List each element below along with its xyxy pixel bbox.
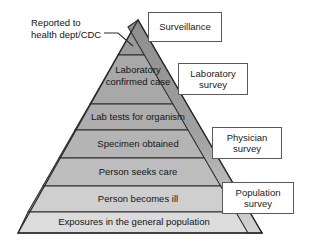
callout-box-laboratory-survey[interactable]: Laboratory survey [178,63,248,95]
pyramid-tier-person-seeks-care [43,158,233,186]
pyramid-tier-person-becomes-ill [28,186,248,212]
pyramid-tier-exposures-general-population [18,212,262,233]
diagram-canvas: Reported to health dept/CDC Laboratory c… [0,0,321,247]
callout-box-physician-survey[interactable]: Physician survey [212,127,282,159]
callout-box-population-survey[interactable]: Population survey [222,182,294,214]
callout-box-surveillance[interactable]: Surveillance [148,12,222,42]
annotation-reported-to-health-dept: Reported to health dept/CDC [31,17,119,40]
